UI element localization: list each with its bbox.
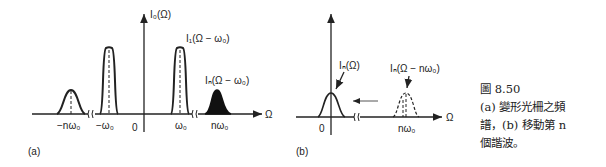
tick-zero: 0 [319,123,325,134]
x-axis-label: Ω [446,112,454,123]
tick-n-omega: nω₀ [211,120,229,131]
y-axis-label: I₀(Ω) [150,9,171,20]
axis-break-icon [354,113,359,121]
caption-line-2: 譜，(b) 移動第 n [480,116,600,134]
peak-label-1: I₁(Ω − ω₀) [186,33,230,44]
peak-label-center: Iₙ(Ω) [339,60,360,71]
caption-line-1: (a) 變形光柵之頻 [480,98,600,116]
panel-a-label: (a) [28,146,40,157]
tick-n-omega: nω₀ [398,123,416,134]
peak-label-n: Iₙ(Ω − ω₀) [205,75,249,86]
peak-label-shifted: Iₙ(Ω − nω₀) [390,63,440,74]
x-axis-label: Ω [265,109,273,120]
pointer-arrow-icon [407,76,409,88]
peak-plus-n-filled [205,90,231,114]
figure-number: 圖 8.50 [480,80,600,98]
panel-b: Iₙ(Ω) Iₙ(Ω − nω₀) Ω 0 nω₀ (b) [296,14,454,157]
tick-minus-n-omega: −nω₀ [57,120,80,131]
tick-omega: ω₀ [175,120,187,131]
figure-caption: 圖 8.50 (a) 變形光柵之頻 譜，(b) 移動第 n 個諧波。 [480,80,600,152]
axis-break-icon [88,110,93,118]
axis-break-icon [192,110,197,118]
tick-minus-omega: −ω₀ [96,120,114,131]
panel-b-label: (b) [296,146,308,157]
tick-zero: 0 [132,122,138,133]
caption-line-3: 個諧波。 [480,134,600,152]
panel-a: I₀(Ω) I₁(Ω − ω₀) Iₙ(Ω − ω₀) Ω −nω₀ −ω₀ 0… [28,9,273,157]
pointer-arrow-icon [336,72,344,89]
